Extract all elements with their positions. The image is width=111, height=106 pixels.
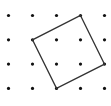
grid-dot [79, 87, 82, 90]
grid-dot [7, 63, 10, 66]
grid-dot [7, 38, 10, 41]
grid-dot [103, 14, 106, 17]
tilted-square [33, 16, 105, 89]
grid-dot [55, 63, 58, 66]
grid-dot [55, 38, 58, 41]
grid-dot [103, 87, 106, 90]
grid-dot [31, 87, 34, 90]
grid-dot [7, 14, 10, 17]
grid-dots [7, 14, 106, 90]
grid-dot [55, 14, 58, 17]
grid-dot [31, 63, 34, 66]
grid-dot [31, 14, 34, 17]
grid-dot [79, 38, 82, 41]
grid-dot [7, 87, 10, 90]
grid-dot [79, 63, 82, 66]
dot-grid-diagram [0, 0, 111, 106]
grid-dot [103, 38, 106, 41]
